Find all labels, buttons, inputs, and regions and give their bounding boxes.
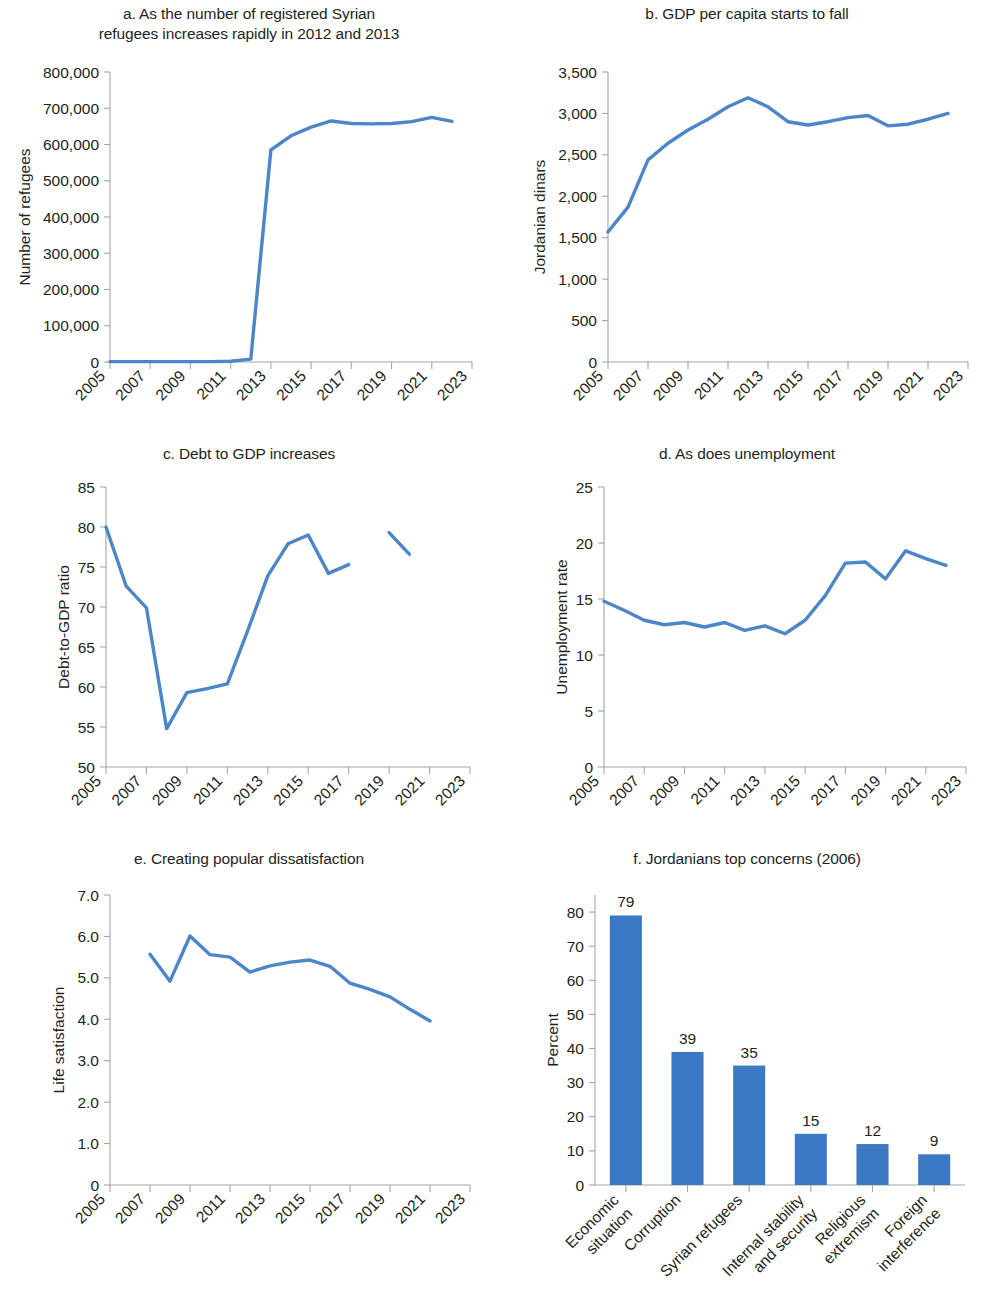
data-series-line [604,551,946,634]
x-tick-label: 2015 [272,1190,308,1226]
x-tick-label: 2013 [233,367,269,403]
y-tick-label: 300,000 [43,245,99,262]
panel-c: c. Debt to GDP increases 505560657075808… [0,440,498,865]
y-tick-label: 800,000 [43,64,99,81]
y-tick-label: 2,500 [558,146,597,163]
bar [795,1134,827,1185]
data-series-line [150,936,430,1021]
x-tick-label: 2009 [650,367,686,403]
panel-d: d. As does unemployment 0510152025Unempl… [498,440,996,865]
x-tick-label: 2015 [273,367,309,403]
panel-title-line: e. Creating popular dissatisfaction [0,849,498,869]
y-axis-title: Life satisfaction [50,987,67,1094]
x-tick-label: 2017 [313,367,349,403]
y-tick-label: 100,000 [43,317,99,334]
x-tick-label: 2021 [391,772,427,808]
y-tick-label: 10 [576,647,594,664]
x-tick-label: 2019 [850,367,886,403]
y-tick-label: 500,000 [43,172,99,189]
y-tick-label: 4.0 [77,1011,99,1028]
x-tick-label: 2009 [152,367,188,403]
x-tick-label: 2011 [193,1190,229,1226]
y-tick-label: 50 [567,1006,585,1023]
panel-a-chart: 0100,000200,000300,000400,000500,000600,… [0,0,498,440]
panel-e-chart: 01.02.03.04.05.06.07.0Life satisfaction2… [0,845,498,1303]
panel-c-chart: 5055606570758085Debt-to-GDP ratio2005200… [0,440,498,865]
panel-e: e. Creating popular dissatisfaction 01.0… [0,845,498,1303]
x-tick-label: 2019 [351,772,387,808]
panel-title-line: d. As does unemployment [498,444,996,464]
x-tick-label: 2011 [193,367,229,403]
y-axis-title: Jordanian dinars [531,159,548,274]
panel-f-title: f. Jordanians top concerns (2006) [498,849,996,869]
y-tick-label: 5.0 [77,969,99,986]
y-tick-label: 1,500 [558,229,597,246]
panel-b: b. GDP per capita starts to fall 05001,0… [498,0,996,440]
y-tick-label: 70 [78,599,96,616]
x-tick-label: 2013 [229,772,265,808]
y-tick-label: 1.0 [77,1135,99,1152]
x-tick-label: 2005 [566,772,602,808]
x-tick-label: 2007 [606,772,642,808]
y-tick-label: 10 [567,1142,585,1159]
y-tick-label: 65 [78,639,95,656]
x-tick-label: 2019 [353,367,389,403]
y-tick-label: 200,000 [43,281,99,298]
x-tick-label: 2015 [767,772,803,808]
y-tick-label: 5 [584,703,593,720]
y-tick-label: 40 [567,1040,585,1057]
x-tick-label: 2021 [393,367,429,403]
y-tick-label: 3,000 [558,105,597,122]
x-tick-label: 2007 [112,1190,148,1226]
x-tick-label: 2017 [310,772,346,808]
y-tick-label: 60 [78,679,96,696]
y-tick-label: 3,500 [558,64,597,81]
y-tick-label: 3.0 [77,1052,99,1069]
data-series-line [608,98,948,232]
y-tick-label: 0 [575,1177,584,1194]
y-tick-label: 80 [567,904,585,921]
x-tick-label: 2011 [691,367,727,403]
y-tick-label: 400,000 [43,209,99,226]
y-axis-title: Unemployment rate [553,559,570,694]
panel-d-title: d. As does unemployment [498,444,996,464]
x-tick-label: 2005 [570,367,606,403]
y-tick-label: 1,000 [558,271,597,288]
y-tick-label: 55 [78,719,95,736]
x-tick-label: 2023 [930,367,966,403]
panel-c-title: c. Debt to GDP increases [0,444,498,464]
x-tick-label: 2017 [807,772,843,808]
y-tick-label: 700,000 [43,100,99,117]
figure-six-panel-jordan-indicators: a. As the number of registered Syrianref… [0,0,996,1303]
x-tick-label: 2011 [190,772,226,808]
x-tick-label: 2021 [887,772,923,808]
x-tick-label: 2017 [810,367,846,403]
y-tick-label: 60 [567,972,585,989]
x-category-label: Religiousextremism [806,1191,882,1267]
panel-b-title: b. GDP per capita starts to fall [498,4,996,24]
x-tick-label: 2019 [847,772,883,808]
panel-e-title: e. Creating popular dissatisfaction [0,849,498,869]
bar [671,1052,703,1185]
panel-d-chart: 0510152025Unemployment rate2005200720092… [498,440,996,865]
y-tick-label: 20 [567,1108,585,1125]
y-tick-label: 80 [78,519,96,536]
y-tick-label: 75 [78,559,95,576]
bar-value-label: 9 [930,1132,939,1149]
x-category-label-line: Corruption [620,1191,683,1254]
y-tick-label: 2,000 [558,188,597,205]
y-tick-label: 15 [576,591,593,608]
x-tick-label: 2009 [149,772,185,808]
x-tick-label: 2009 [646,772,682,808]
y-tick-label: 2.0 [77,1094,99,1111]
panel-title-line: refugees increases rapidly in 2012 and 2… [0,24,498,44]
y-tick-label: 20 [576,535,594,552]
x-tick-label: 2007 [112,367,148,403]
x-tick-label: 2005 [72,1190,108,1226]
bar-value-label: 79 [617,893,634,910]
x-tick-label: 2015 [770,367,806,403]
x-tick-label: 2017 [312,1190,348,1226]
panel-title-line: f. Jordanians top concerns (2006) [498,849,996,869]
y-axis-title: Debt-to-GDP ratio [55,565,72,689]
bar-value-label: 15 [802,1112,819,1129]
